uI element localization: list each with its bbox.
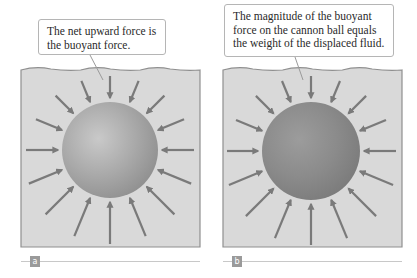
cannon-ball-b bbox=[262, 102, 360, 200]
callout-buoyant-magnitude: The magnitude of the buoyant force on th… bbox=[224, 4, 394, 57]
callout-net-upward-force: The net upward force is the buoyant forc… bbox=[38, 19, 166, 55]
cannon-ball-a bbox=[62, 102, 158, 198]
